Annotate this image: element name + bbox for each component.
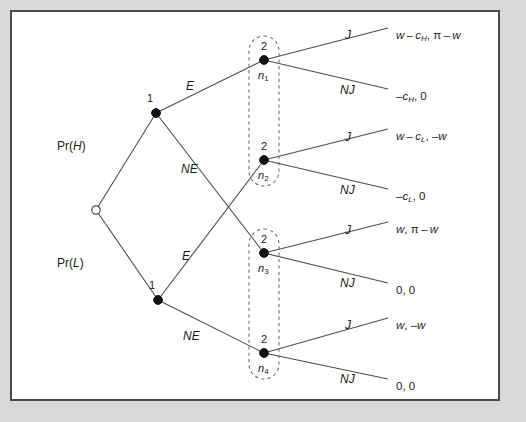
decision-node-n2[interactable] [260,156,269,165]
node-name-n1: n1 [258,70,269,81]
decision-node-n3[interactable] [260,249,269,258]
payoff-payoff-n2-J: w – cL, –w [396,131,447,143]
edge-n3-J [264,222,388,253]
player-label-n2: 2 [261,141,267,152]
player-label-n1: 2 [261,41,267,52]
action-label-action-NJ-n4: NJ [340,373,355,385]
player-label-n3: 2 [261,234,267,245]
game-tree-canvas [0,0,526,422]
edge-p1low-E [158,160,264,300]
decision-node-n4[interactable] [260,349,269,358]
player-label-n4: 2 [261,334,267,345]
chance-node-root[interactable] [92,206,100,214]
figure-root: Pr(H)Pr(L)112n12n22n32n4ENEENEJNJJNJJNJJ… [0,0,526,422]
node-name-n2: n2 [258,170,269,181]
edge-n3-NJ [264,253,388,283]
information-set-ovals [249,36,279,379]
edge-p1low-NE [158,300,264,353]
action-label-action-J-n3: J [345,224,351,236]
payoff-payoff-n1-J: w – cH, π – w [396,30,461,42]
action-label-action-J-n4: J [345,319,351,331]
decision-node-p1-high[interactable] [152,109,161,118]
edge-n2-NJ [264,160,388,189]
decision-node-n1[interactable] [260,56,269,65]
edge-n2-J [264,129,388,160]
payoff-payoff-n4-NJ: 0, 0 [396,381,415,393]
probability-label-pr-low: Pr(L) [57,257,84,269]
payoff-payoff-n2-NJ: –cL, 0 [396,191,425,203]
edge-n1-J [264,28,388,60]
node-name-n3: n3 [258,263,269,274]
action-label-action-J-n1: J [345,29,351,41]
action-label-action-J-n2: J [345,131,351,143]
node-name-n4: n4 [258,363,269,374]
edge-p1high-E [156,60,264,113]
probability-label-pr-high: Pr(H) [57,140,86,152]
player-label-p1-low: 1 [149,280,155,291]
action-label-action-E-low: E [182,250,190,262]
edge-chance-high [96,113,156,210]
action-label-action-NE-low: NE [183,330,200,342]
payoff-payoff-n3-J: w, π – w [396,224,438,236]
decision-node-p1-low[interactable] [154,296,163,305]
edge-n4-J [264,318,388,353]
payoff-payoff-n3-NJ: 0, 0 [396,285,415,297]
action-label-action-E-high: E [186,80,194,92]
payoff-payoff-n1-NJ: –cH, 0 [396,91,427,103]
action-label-action-NJ-n2: NJ [340,184,355,196]
edge-n1-NJ [264,60,388,89]
action-label-action-NJ-n3: NJ [340,277,355,289]
edge-n4-NJ [264,353,388,379]
player-label-p1-high: 1 [147,93,153,104]
payoff-payoff-n4-J: w, –w [396,320,425,332]
action-label-action-NJ-n1: NJ [340,84,355,96]
action-label-action-NE-high: NE [181,163,198,175]
